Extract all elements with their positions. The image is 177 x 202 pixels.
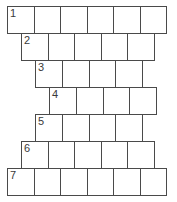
grid-cell[interactable]	[140, 168, 168, 196]
grid-cell[interactable]	[127, 33, 155, 61]
grid-cell[interactable]	[60, 168, 88, 196]
grid-cell[interactable]	[60, 6, 88, 34]
clue-number-3: 3	[38, 61, 44, 73]
grid-cell[interactable]: 1	[7, 6, 35, 34]
grid-cell[interactable]: 2	[21, 33, 49, 61]
grid-cell[interactable]	[62, 114, 90, 142]
grid-cell[interactable]	[34, 168, 62, 196]
grid-cell[interactable]	[74, 33, 102, 61]
grid-cell[interactable]	[87, 6, 115, 34]
grid-cell[interactable]	[62, 60, 90, 88]
clue-number-4: 4	[52, 88, 58, 100]
grid-cell[interactable]: 7	[7, 168, 35, 196]
grid-cell[interactable]	[115, 60, 143, 88]
grid-cell[interactable]	[113, 6, 141, 34]
grid-cell[interactable]: 6	[21, 141, 49, 169]
grid-cell[interactable]: 4	[49, 87, 77, 115]
grid-cell[interactable]	[103, 87, 131, 115]
clue-number-1: 1	[10, 7, 16, 19]
grid-cell[interactable]	[113, 168, 141, 196]
brick-row-4: 4	[49, 87, 157, 115]
grid-cell[interactable]	[127, 141, 155, 169]
grid-cell[interactable]	[87, 168, 115, 196]
brick-row-3: 3	[35, 60, 143, 88]
grid-cell[interactable]	[140, 6, 168, 34]
grid-cell[interactable]	[48, 141, 76, 169]
clue-number-6: 6	[24, 142, 30, 154]
brick-row-5: 5	[35, 114, 143, 142]
grid-cell[interactable]	[76, 87, 104, 115]
brick-row-2: 2	[21, 33, 155, 61]
clue-number-7: 7	[10, 169, 16, 181]
grid-cell[interactable]	[34, 6, 62, 34]
grid-cell[interactable]: 5	[35, 114, 63, 142]
grid-cell[interactable]	[115, 114, 143, 142]
brick-row-6: 6	[21, 141, 155, 169]
grid-cell[interactable]	[48, 33, 76, 61]
grid-cell[interactable]	[89, 60, 117, 88]
grid-cell[interactable]	[101, 141, 129, 169]
grid-cell[interactable]	[129, 87, 157, 115]
clue-number-2: 2	[24, 34, 30, 46]
clue-number-5: 5	[38, 115, 44, 127]
puzzle-grid-canvas: 1234567	[0, 0, 177, 202]
grid-cell[interactable]	[74, 141, 102, 169]
brick-row-7: 7	[7, 168, 167, 196]
grid-cell[interactable]: 3	[35, 60, 63, 88]
grid-cell[interactable]	[101, 33, 129, 61]
brick-row-1: 1	[7, 6, 167, 34]
grid-cell[interactable]	[89, 114, 117, 142]
